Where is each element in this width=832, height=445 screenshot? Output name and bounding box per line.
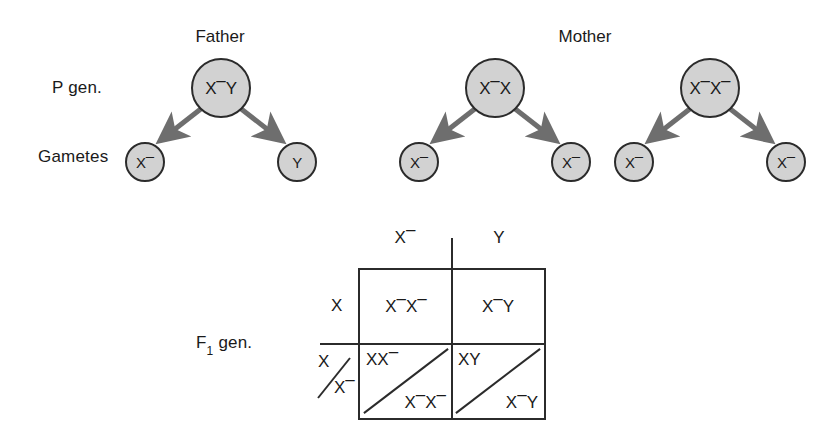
gametes-label: Gametes <box>38 147 108 167</box>
punnett-col-header-1: X– <box>358 228 452 248</box>
mother2-gamete-2-main: X <box>777 154 787 171</box>
father-gamete-1-main: X <box>136 154 146 171</box>
mother1-geno-tail: X <box>500 79 511 98</box>
mother2-gamete-1-main: X <box>625 154 635 171</box>
mother2-gamete-circle-1: X– <box>614 142 654 182</box>
p-gen-label: P gen. <box>52 78 102 98</box>
arrow-mother1-gamete-2 <box>514 108 555 140</box>
punnett-cell-r1c1-genotype: X–X– <box>360 297 452 317</box>
g: X <box>385 297 396 316</box>
mother2-gamete-2-sup: – <box>787 147 795 164</box>
mother1-gamete-2-main: X <box>562 154 572 171</box>
f1-gen-label: F1 gen. <box>196 333 252 353</box>
punnett-row-header-2: X X– <box>316 352 360 404</box>
f1-gen-suffix: gen. <box>213 333 252 352</box>
g-sup: – <box>416 385 425 404</box>
mother-parent-circle-1: X–X <box>465 58 525 118</box>
g-sup: – <box>493 289 502 308</box>
g2: Y <box>527 393 538 412</box>
mother2-geno-sup: – <box>701 71 710 90</box>
punnett-cell-r2c2-lower-genotype: X–Y <box>506 393 538 413</box>
genetics-diagram: P gen. Gametes F1 gen. Father X–Y X– Y M… <box>0 0 832 445</box>
punnett-cell-r2c1-upper-genotype: XX– <box>366 350 398 370</box>
father-title: Father <box>160 27 280 47</box>
g: X <box>482 297 493 316</box>
g: X <box>366 350 377 369</box>
father-gamete-circle-1: X– <box>125 142 165 182</box>
mother1-gamete-circle-2: X– <box>551 142 591 182</box>
arrow-father-gamete-2 <box>240 108 281 140</box>
mother1-gamete-circle-1: X– <box>399 142 439 182</box>
g: X <box>404 393 415 412</box>
father-geno-sup: – <box>216 71 225 90</box>
f1-gen-subscript: 1 <box>207 344 214 358</box>
g2-sup: – <box>437 385 446 404</box>
punnett-row-header-2-top-main: X <box>318 352 329 371</box>
g: X <box>458 350 469 369</box>
g2-sup: – <box>417 289 426 308</box>
mother2-geno-main: X <box>689 79 700 98</box>
punnett-cell-r1c2-genotype: X–Y <box>452 297 544 317</box>
mother2-gamete-1-sup: – <box>635 147 643 164</box>
g2: X <box>406 297 417 316</box>
mother1-gamete-2-sup: – <box>572 147 580 164</box>
father-gamete-2-main: Y <box>292 154 302 171</box>
mother1-gamete-1-sup: – <box>420 147 428 164</box>
father-gamete-2-genotype: Y <box>292 155 302 170</box>
punnett-square: X–X– X–Y XX– X–X– XY X–Y <box>358 268 546 420</box>
punnett-row-header-1: X <box>331 296 342 316</box>
punnett-col-header-2-main: Y <box>493 228 504 247</box>
arrow-mother2-gamete-2 <box>729 108 770 140</box>
arrow-mother2-gamete-1 <box>650 108 691 140</box>
father-geno-tail: Y <box>226 79 237 98</box>
arrow-mother1-gamete-1 <box>435 108 476 140</box>
father-gamete-circle-2: Y <box>277 142 317 182</box>
punnett-row-header-2-bottom: X– <box>334 378 355 398</box>
g-sup: – <box>517 385 526 404</box>
mother2-geno-tail: X <box>710 79 721 98</box>
punnett-col-header-2: Y <box>452 228 546 248</box>
mother1-gamete-2-genotype: X– <box>562 155 580 170</box>
f1-gen-prefix: F <box>196 333 207 352</box>
mother2-genotype: X–X– <box>689 80 730 97</box>
mother2-geno-tail-sup: – <box>721 71 730 90</box>
punnett-left-divider-tick <box>320 343 360 345</box>
mother1-geno-main: X <box>479 79 490 98</box>
mother-parent-circle-2: X–X– <box>680 58 740 118</box>
g2-sup: – <box>389 342 398 361</box>
g: X <box>506 393 517 412</box>
father-parent-circle: X–Y <box>191 58 251 118</box>
punnett-cell-r2c1: XX– X–X– <box>360 344 452 418</box>
mother2-gamete-1-genotype: X– <box>625 155 643 170</box>
punnett-cell-r2c2: XY X–Y <box>452 344 544 418</box>
punnett-row-header-2-bottom-sup: – <box>345 370 354 389</box>
mother-title: Mother <box>525 27 645 47</box>
father-gamete-1-sup: – <box>146 147 154 164</box>
mother1-genotype: X–X <box>479 80 511 97</box>
punnett-row-header-2-top: X <box>318 352 329 372</box>
punnett-col-header-1-sup: – <box>406 220 415 239</box>
mother1-geno-sup: – <box>490 71 499 90</box>
mother1-gamete-1-main: X <box>410 154 420 171</box>
punnett-row-header-1-main: X <box>331 296 342 315</box>
g2: X <box>425 393 436 412</box>
g-sup: – <box>397 289 406 308</box>
g2: Y <box>503 297 514 316</box>
mother1-gamete-1-genotype: X– <box>410 155 428 170</box>
punnett-cell-r1c1: X–X– <box>360 270 452 344</box>
punnett-row-header-2-bottom-main: X <box>334 378 345 397</box>
father-gamete-1-genotype: X– <box>136 155 154 170</box>
mother2-gamete-circle-2: X– <box>766 142 806 182</box>
father-genotype: X–Y <box>205 80 237 97</box>
punnett-col-header-1-main: X <box>395 228 406 247</box>
g2: Y <box>469 350 480 369</box>
arrow-father-gamete-1 <box>161 108 202 140</box>
punnett-cell-r1c2: X–Y <box>452 270 544 344</box>
punnett-cell-r2c2-upper-genotype: XY <box>458 350 481 370</box>
punnett-cell-r2c1-lower-genotype: X–X– <box>404 393 446 413</box>
g2: X <box>377 350 388 369</box>
father-geno-main: X <box>205 79 216 98</box>
mother2-gamete-2-genotype: X– <box>777 155 795 170</box>
